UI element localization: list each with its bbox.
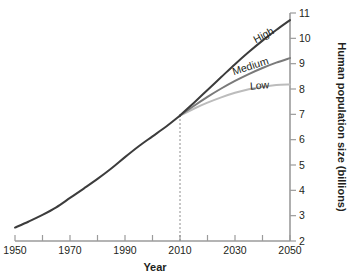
y-tick-label: 11	[299, 7, 310, 19]
series-label-low: Low	[249, 78, 269, 91]
x-tick-label: 2030	[223, 244, 247, 256]
x-tick-label: 1950	[3, 244, 27, 256]
population-projection-chart: 195019701990201020302050 234567891011 Hi…	[0, 0, 349, 278]
series-inline-labels: HighMediumLow	[231, 24, 276, 91]
y-axis-title: Human population size (billions)	[336, 42, 348, 212]
y-tick-label: 6	[299, 133, 305, 145]
y-tick-label: 5	[299, 159, 305, 171]
x-axis-tick-labels: 195019701990201020302050	[3, 244, 302, 256]
y-tick-label: 3	[299, 209, 305, 221]
y-tick-label: 4	[299, 184, 305, 196]
series-line-historical	[15, 116, 180, 228]
x-tick-label: 1990	[113, 244, 137, 256]
y-axis-tick-labels: 234567891011	[299, 7, 311, 247]
x-axis-title: Year	[143, 261, 167, 273]
chart-canvas: 195019701990201020302050 234567891011 Hi…	[0, 0, 349, 278]
x-tick-label: 1970	[58, 244, 82, 256]
x-tick-label: 2010	[168, 244, 192, 256]
y-tick-label: 2	[299, 235, 305, 247]
x-axis-ticks	[15, 235, 290, 241]
y-tick-label: 8	[299, 83, 305, 95]
y-tick-label: 9	[299, 57, 305, 69]
y-axis-ticks	[290, 13, 296, 241]
chart-series	[15, 20, 290, 227]
y-tick-label: 10	[299, 32, 311, 44]
series-label-high: High	[251, 24, 276, 45]
y-tick-label: 7	[299, 108, 305, 120]
